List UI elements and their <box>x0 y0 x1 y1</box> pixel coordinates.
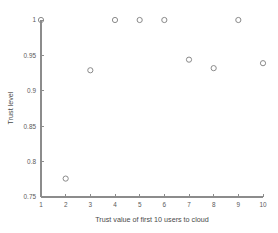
y-tick-label: 1 <box>32 16 36 23</box>
data-point <box>260 61 265 66</box>
data-point <box>112 17 117 22</box>
x-tick-label: 2 <box>64 201 68 208</box>
x-tick-label: 9 <box>237 201 241 208</box>
x-tick-label: 10 <box>259 201 267 208</box>
y-tick-label: 0.85 <box>24 123 37 130</box>
x-tick-label: 1 <box>39 201 43 208</box>
plot-canvas: 0.750.80.850.90.951 12345678910 Trust va… <box>0 0 278 233</box>
y-axis-title: Trust level <box>6 91 15 124</box>
data-point <box>137 17 142 22</box>
data-point <box>63 176 68 181</box>
x-tick-group: 12345678910 <box>39 194 267 208</box>
data-point <box>186 57 191 62</box>
y-tick-label: 0.95 <box>24 52 37 59</box>
data-point-group <box>38 17 265 181</box>
x-tick-label: 4 <box>113 201 117 208</box>
y-tick-label: 0.75 <box>24 193 37 200</box>
scatter-chart-figure: 0.750.80.850.90.951 12345678910 Trust va… <box>0 0 278 233</box>
x-axis-title: Trust value of first 10 users to cloud <box>95 215 209 224</box>
x-tick-label: 3 <box>89 201 93 208</box>
x-tick-label: 8 <box>212 201 216 208</box>
x-tick-label: 6 <box>163 201 167 208</box>
data-point <box>236 17 241 22</box>
data-point <box>88 68 93 73</box>
y-tick-label: 0.9 <box>27 87 36 94</box>
x-tick-label: 5 <box>138 201 142 208</box>
data-point <box>211 66 216 71</box>
y-tick-label: 0.8 <box>27 158 36 165</box>
data-point <box>162 17 167 22</box>
x-tick-label: 7 <box>187 201 191 208</box>
